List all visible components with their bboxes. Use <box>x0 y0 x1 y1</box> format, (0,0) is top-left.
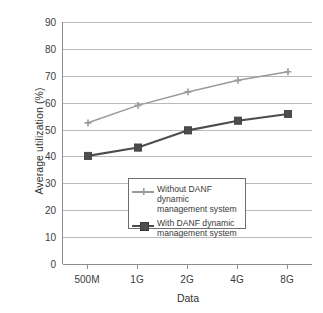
data-point-marker <box>84 152 91 159</box>
legend-item: Without DANF dynamic management system <box>132 183 242 214</box>
x-tick-mark <box>237 264 238 269</box>
data-point-marker <box>185 89 192 96</box>
legend-swatch-icon <box>132 183 154 201</box>
y-axis-title: Average utilization (%) <box>33 31 45 251</box>
series-line <box>88 114 288 156</box>
y-tick-label: 20 <box>26 205 56 216</box>
y-tick-label: 30 <box>26 178 56 189</box>
legend-swatch-icon <box>132 217 154 235</box>
data-point-marker <box>134 144 141 151</box>
y-tick-label: 90 <box>26 17 56 28</box>
x-tick-mark <box>287 264 288 269</box>
legend-item: With DANF dynamic management system <box>132 217 242 238</box>
y-tick-label: 80 <box>26 43 56 54</box>
x-tick-mark <box>187 264 188 269</box>
legend-label: Without DANF dynamic management system <box>157 183 242 214</box>
y-tick-label: 40 <box>26 151 56 162</box>
x-tick-mark <box>137 264 138 269</box>
y-tick-label: 60 <box>26 97 56 108</box>
x-axis-title: Data <box>60 292 316 304</box>
line-chart: Average utilization (%) 0102030405060708… <box>0 0 323 313</box>
y-tick-label: 70 <box>26 70 56 81</box>
legend-label: With DANF dynamic management system <box>157 217 237 238</box>
data-point-marker <box>184 127 191 134</box>
data-point-marker <box>285 68 292 75</box>
data-point-marker <box>85 119 92 126</box>
x-tick-label: 8G <box>257 274 317 285</box>
data-point-marker <box>135 102 142 109</box>
y-tick-label: 50 <box>26 124 56 135</box>
data-point-marker <box>234 117 241 124</box>
x-tick-mark <box>87 264 88 269</box>
data-point-marker <box>235 77 242 84</box>
series-2 <box>84 110 291 159</box>
y-tick-label: 0 <box>26 259 56 270</box>
y-tick-label: 10 <box>26 232 56 243</box>
data-point-marker <box>284 110 291 117</box>
chart-legend: Without DANF dynamic management systemWi… <box>128 178 246 229</box>
series-line <box>88 72 288 123</box>
